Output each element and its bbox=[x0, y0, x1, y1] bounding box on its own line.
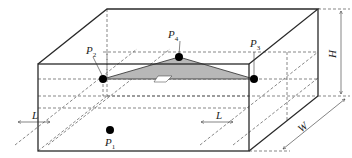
width-dimension: W bbox=[249, 99, 345, 151]
label-p2: P2 bbox=[85, 44, 97, 59]
point-p3 bbox=[250, 75, 258, 83]
label-p4: P4 bbox=[167, 28, 179, 43]
right-offset-dimension: L bbox=[201, 109, 233, 122]
height-dimension: H bbox=[318, 9, 350, 96]
height-label: H bbox=[326, 49, 338, 59]
right-offset-label: L bbox=[215, 109, 222, 121]
width-label: W bbox=[295, 119, 310, 135]
left-offset-label: L bbox=[31, 109, 38, 121]
point-p4 bbox=[175, 53, 183, 61]
label-p1: P1 bbox=[104, 136, 116, 151]
point-p2 bbox=[99, 75, 107, 83]
box-outline bbox=[38, 9, 318, 151]
point-p1 bbox=[106, 126, 114, 134]
label-p3: P3 bbox=[249, 37, 261, 52]
left-offset-dimension: L bbox=[18, 109, 50, 122]
box-diagram: H W L L P2 P4 P3 P1 bbox=[0, 0, 352, 158]
